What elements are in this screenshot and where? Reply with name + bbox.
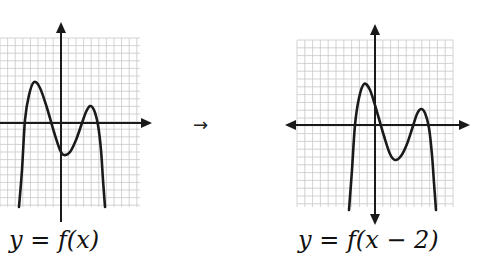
label-original: y = f(x) (9, 226, 99, 254)
y-axis-arrow-down-icon (370, 214, 380, 225)
x-axis-arrow-left-icon (285, 120, 296, 130)
graph-shifted-panel (0, 0, 477, 230)
x-axis-arrow-right-icon (459, 120, 470, 130)
graph-shifted (0, 0, 477, 230)
label-shifted: y = f(x − 2) (298, 226, 439, 254)
y-axis-arrow-up-icon (370, 24, 380, 35)
